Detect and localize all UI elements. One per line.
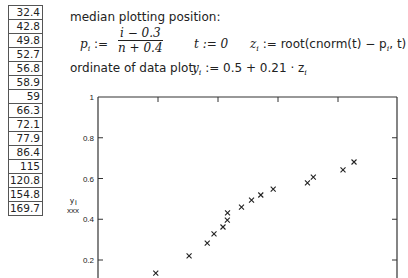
data-point-marker xyxy=(271,187,276,192)
data-point-marker xyxy=(220,224,225,229)
data-point-marker xyxy=(153,271,158,276)
y-tick-label: 0.4 xyxy=(83,215,95,224)
scatter-plot: 10.80.60.40.2yixxx xyxy=(0,0,408,278)
data-point-marker xyxy=(205,241,210,246)
data-point-marker xyxy=(352,159,357,164)
data-point-marker xyxy=(249,198,254,203)
data-point-marker xyxy=(258,193,263,198)
y-tick-label: 0.6 xyxy=(83,175,95,184)
data-point-marker xyxy=(341,167,346,172)
y-tick-label: 0.8 xyxy=(83,134,95,143)
data-point-marker xyxy=(311,175,316,180)
y-tick-label: 1 xyxy=(90,93,95,102)
data-point-marker xyxy=(225,210,230,215)
data-point-marker xyxy=(305,180,310,185)
y-tick-label: 0.2 xyxy=(83,256,95,265)
data-point-marker xyxy=(212,231,217,236)
data-point-marker xyxy=(187,253,192,258)
y-axis-label: y xyxy=(70,196,74,205)
data-point-marker xyxy=(239,205,244,210)
y-axis-legend-marker: xxx xyxy=(67,206,79,215)
data-point-marker xyxy=(225,218,230,223)
